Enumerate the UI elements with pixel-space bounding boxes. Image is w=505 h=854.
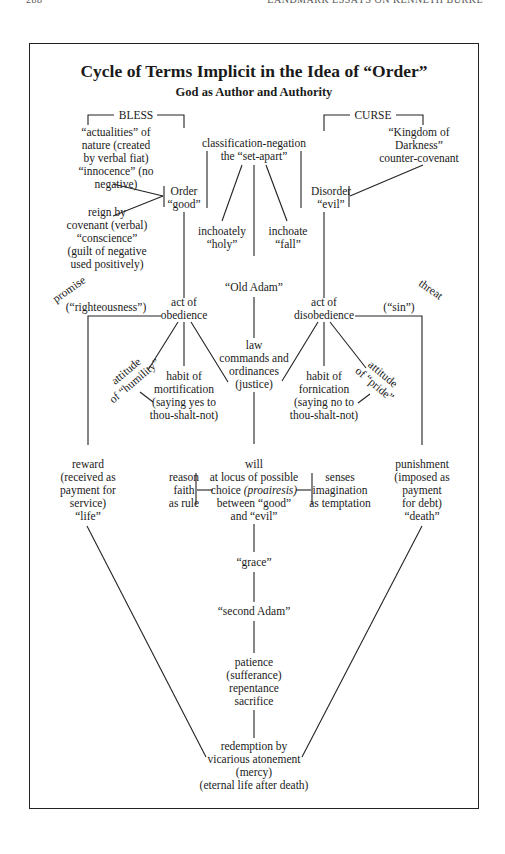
svg-text:“conscience”: “conscience”: [77, 232, 138, 244]
svg-text:and “evil”: and “evil”: [231, 510, 278, 522]
senses-imagination: senses imagination as temptation: [309, 471, 371, 510]
svg-text:counter-covenant: counter-covenant: [379, 152, 459, 164]
svg-text:inchoately: inchoately: [198, 225, 246, 238]
svg-text:“evil”: “evil”: [317, 198, 344, 210]
svg-text:covenant (verbal): covenant (verbal): [67, 219, 148, 232]
svg-text:used positively): used positively): [70, 258, 143, 271]
second-adam: “second Adam”: [218, 605, 291, 617]
svg-text:as rule: as rule: [169, 497, 199, 509]
act-of-disobedience: act of disobedience: [294, 296, 354, 321]
svg-text:obedience: obedience: [161, 309, 208, 321]
svg-text:“innocence” (no: “innocence” (no: [78, 165, 153, 178]
svg-text:by verbal fiat): by verbal fiat): [83, 152, 148, 165]
svg-text:the “set-apart”: the “set-apart”: [221, 150, 288, 163]
righteousness: (“righteousness”): [66, 301, 147, 314]
svg-text:thou-shalt-not): thou-shalt-not): [150, 409, 219, 422]
svg-text:“Kingdom of: “Kingdom of: [388, 126, 449, 139]
kingdom-of-darkness: “Kingdom of Darkness” counter-covenant: [379, 126, 459, 164]
inchoately-holy: inchoately “holy”: [198, 225, 246, 251]
law-commands-ordinances: law commands and ordinances (justice): [219, 339, 289, 391]
svg-text:repentance: repentance: [229, 682, 279, 695]
svg-text:choice (proairesis): choice (proairesis): [211, 484, 298, 497]
svg-text:payment for: payment for: [60, 484, 116, 497]
redemption: redemption by vicarious atonement (mercy…: [200, 740, 309, 792]
order-good: Order “good”: [167, 185, 200, 211]
svg-text:reign by: reign by: [88, 206, 126, 219]
disorder-evil: Disorder “evil”: [311, 185, 351, 210]
curse-label: CURSE: [354, 109, 391, 121]
svg-text:Darkness”: Darkness”: [395, 139, 443, 151]
svg-text:nature (created: nature (created: [82, 139, 151, 152]
svg-text:(mercy): (mercy): [236, 766, 273, 779]
svg-text:imagination: imagination: [313, 484, 368, 497]
svg-text:vicarious atonement: vicarious atonement: [208, 753, 302, 765]
svg-text:for debt): for debt): [402, 497, 442, 510]
svg-text:(guilt of negative: (guilt of negative: [67, 245, 146, 258]
patience-repentance: patience (sufferance) repentance sacrifi…: [226, 656, 282, 707]
svg-text:payment: payment: [402, 484, 442, 497]
svg-text:(saying yes to: (saying yes to: [152, 396, 216, 409]
svg-text:fornication: fornication: [299, 383, 350, 395]
grace: “grace”: [236, 556, 271, 569]
old-adam: “Old Adam”: [225, 281, 283, 293]
svg-text:(sufferance): (sufferance): [226, 669, 282, 682]
svg-text:disobedience: disobedience: [294, 309, 354, 321]
attitude-of-pride: attitude of “pride”: [353, 354, 405, 404]
diagram-title: Cycle of Terms Implicit in the Idea of “…: [80, 61, 427, 81]
punishment-death: punishment (imposed as payment for debt)…: [394, 458, 450, 522]
svg-text:“life”: “life”: [75, 510, 101, 522]
svg-text:(received as: (received as: [60, 471, 116, 484]
bless-label: BLESS: [119, 109, 154, 121]
svg-text:Disorder: Disorder: [311, 185, 351, 197]
svg-text:inchoate: inchoate: [269, 225, 308, 237]
svg-text:patience: patience: [235, 656, 273, 669]
act-of-obedience: act of obedience: [161, 296, 208, 321]
svg-text:act of: act of: [171, 296, 197, 308]
classification-negation: classification-negation the “set-apart”: [202, 137, 306, 163]
svg-text:classification-negation: classification-negation: [202, 137, 306, 150]
svg-text:punishment: punishment: [395, 458, 449, 471]
threat-label: threat: [417, 277, 446, 302]
diagram-subtitle: God as Author and Authority: [176, 85, 334, 99]
svg-text:at locus of possible: at locus of possible: [210, 471, 298, 484]
svg-text:habit of: habit of: [306, 370, 342, 382]
habit-of-mortification: habit of mortification (saying yes to th…: [150, 370, 219, 422]
will-locus-of-choice: will at locus of possible choice (proair…: [210, 458, 298, 522]
svg-text:faith: faith: [173, 484, 194, 496]
svg-text:“good”: “good”: [167, 198, 200, 211]
reign-by-covenant: reign by covenant (verbal) “conscience” …: [67, 206, 148, 271]
svg-text:commands and: commands and: [219, 352, 289, 364]
svg-text:as temptation: as temptation: [309, 497, 371, 510]
svg-text:mortification: mortification: [154, 383, 214, 395]
svg-text:between “good”: between “good”: [217, 497, 291, 510]
svg-text:habit of: habit of: [166, 370, 202, 382]
svg-text:reason: reason: [169, 471, 199, 483]
svg-text:“death”: “death”: [404, 510, 439, 522]
svg-text:(imposed as: (imposed as: [394, 471, 450, 484]
svg-text:“actualities” of: “actualities” of: [81, 126, 150, 138]
inchoate-fall: inchoate “fall”: [269, 225, 308, 250]
svg-text:Order: Order: [171, 185, 198, 197]
svg-text:will: will: [245, 458, 263, 470]
svg-text:reward: reward: [72, 458, 104, 470]
svg-text:service): service): [70, 497, 107, 510]
svg-text:sacrifice: sacrifice: [235, 695, 274, 707]
svg-text:ordinances: ordinances: [229, 365, 279, 377]
svg-text:(justice): (justice): [235, 378, 273, 391]
sin: (“sin”): [383, 301, 414, 314]
cycle-of-terms-diagram: Cycle of Terms Implicit in the Idea of “…: [0, 0, 505, 854]
reward-life: reward (received as payment for service)…: [60, 458, 116, 522]
svg-text:senses: senses: [325, 471, 355, 483]
svg-text:“fall”: “fall”: [275, 238, 301, 250]
svg-text:act of: act of: [311, 296, 337, 308]
svg-text:“holy”: “holy”: [207, 238, 238, 251]
svg-text:redemption by: redemption by: [221, 740, 288, 753]
habit-of-fornication: habit of fornication (saying no to thou-…: [290, 370, 359, 422]
svg-text:(eternal life after death): (eternal life after death): [200, 779, 309, 792]
svg-text:thou-shalt-not): thou-shalt-not): [290, 409, 359, 422]
actualities-of-nature: “actualities” of nature (created by verb…: [78, 126, 153, 191]
svg-text:(saying no to: (saying no to: [294, 396, 354, 409]
reason-faith: reason faith as rule: [169, 471, 199, 509]
svg-text:law: law: [246, 339, 263, 351]
